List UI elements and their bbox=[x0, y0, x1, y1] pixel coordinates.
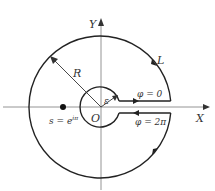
lower-cut-label: φ = 2π bbox=[135, 117, 167, 127]
x-axis-label: X bbox=[195, 112, 205, 125]
contour-L-label: L bbox=[156, 54, 164, 67]
lower-cut-arrow-icon bbox=[133, 110, 139, 116]
radius-R-label: R bbox=[72, 67, 81, 80]
origin-label: O bbox=[91, 112, 100, 125]
x-axis-arrow-icon bbox=[203, 104, 210, 110]
point-s bbox=[60, 104, 66, 110]
point-s-label: s = eiπ bbox=[49, 114, 79, 126]
contour-diagram: Y X O R L ε φ = 0 φ = 2π s = eiπ bbox=[0, 0, 215, 191]
point-s-exponent: iπ bbox=[72, 114, 79, 121]
upper-cut-label: φ = 0 bbox=[137, 89, 163, 99]
y-axis-arrow-icon bbox=[98, 18, 104, 26]
y-axis-label: Y bbox=[89, 18, 98, 31]
radius-epsilon-label: ε bbox=[104, 96, 109, 106]
